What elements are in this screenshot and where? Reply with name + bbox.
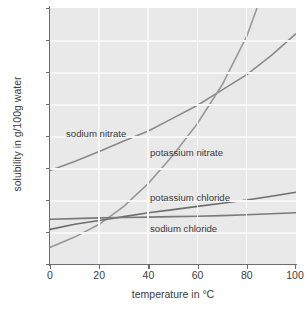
annotation-sodium-chloride: sodium chloride [150, 223, 217, 234]
solubility-chart: solubility in g/100g water temperature i… [0, 0, 308, 309]
gridline-h-150 [50, 72, 296, 74]
plot-area: sodium nitrate potassium nitrate potassi… [50, 8, 296, 264]
y-tick-125 [46, 104, 50, 105]
y-axis: 200 175 150 125 100 75 50 25 0 [0, 8, 50, 264]
y-tick-175 [46, 40, 50, 41]
gridline-h-75 [50, 168, 296, 170]
annotation-sodium-nitrate: sodium nitrate [66, 128, 126, 139]
y-tick-100 [46, 136, 50, 137]
y-tick-200 [46, 8, 50, 9]
x-tick-label-20: 20 [79, 270, 119, 281]
y-tick-50 [46, 200, 50, 201]
y-tick-75 [46, 168, 50, 169]
x-tick-label-80: 80 [227, 270, 267, 281]
y-tick-25 [46, 232, 50, 233]
x-axis: 0 20 40 60 80 100 [50, 265, 296, 289]
x-tick-label-0: 0 [30, 270, 70, 281]
x-tick-label-60: 60 [178, 270, 218, 281]
gridline-h-175 [50, 40, 296, 42]
curve-sodium-chloride [50, 213, 296, 219]
y-tick-150 [46, 72, 50, 73]
annotation-potassium-nitrate: potassium nitrate [150, 147, 223, 158]
x-axis-title: temperature in °C [50, 288, 296, 300]
gridline-h-125 [50, 104, 296, 106]
annotation-potassium-chloride: potassium chloride [150, 192, 230, 203]
x-tick-label-40: 40 [128, 270, 168, 281]
x-tick-label-100: 100 [275, 270, 308, 281]
